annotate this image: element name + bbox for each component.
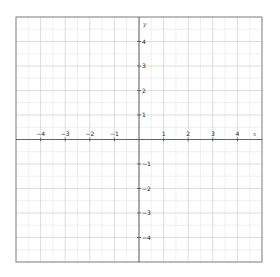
x-tick-label: 1 [162, 130, 166, 137]
x-tick-label: −4 [36, 130, 45, 137]
x-tick-label: −1 [110, 130, 119, 137]
coordinate-plane: −4−3−2−11234 −4−3−2−11234 x y [0, 0, 280, 277]
y-tick-label: −4 [142, 234, 151, 241]
y-tick-label: 4 [142, 38, 146, 45]
y-tick-label: −1 [142, 160, 151, 167]
x-tick-label: −3 [61, 130, 70, 137]
y-tick-label: 1 [142, 111, 146, 118]
y-tick-label: 3 [142, 62, 146, 69]
y-tick-label: −3 [142, 209, 151, 216]
y-axis-label: y [142, 20, 147, 28]
x-tick-label: −2 [85, 130, 94, 137]
x-tick-labels: −4−3−2−11234 [36, 130, 239, 137]
x-tick-label: 3 [211, 130, 215, 137]
x-axis-label: x [253, 130, 257, 137]
y-tick-label: 2 [142, 87, 146, 94]
x-tick-label: 4 [235, 130, 239, 137]
y-tick-labels: −4−3−2−11234 [142, 38, 151, 241]
y-tick-label: −2 [142, 185, 151, 192]
x-tick-label: 2 [186, 130, 190, 137]
